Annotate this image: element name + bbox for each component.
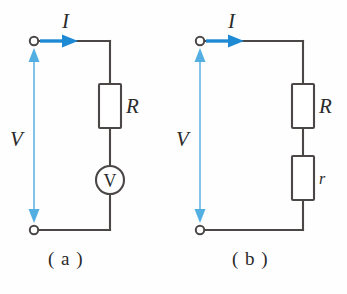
circuit-diagram-b: I V R r [173, 0, 347, 245]
circuit-diagram-a: V I V R [0, 0, 174, 245]
current-label-a: I [61, 9, 70, 33]
resistor-R-b [292, 84, 314, 128]
resistor-label-R-b: R [318, 94, 332, 118]
wires-b [204, 41, 303, 230]
bottom-terminal-b [196, 226, 204, 234]
circuit-figure: V I V R [0, 0, 347, 294]
resistor-label-r-b: r [319, 170, 326, 187]
current-label-b: I [227, 9, 236, 33]
top-terminal-a [30, 37, 38, 45]
caption-a: ( a ) [48, 248, 84, 270]
wires-a [38, 41, 110, 230]
top-terminal-b [196, 37, 204, 45]
resistor-R-a [99, 84, 121, 128]
voltmeter-label-a: V [104, 171, 117, 191]
current-arrow-a [40, 35, 78, 48]
voltage-arrow-b [195, 48, 206, 223]
voltage-label-a: V [10, 127, 25, 151]
resistor-r-b [292, 156, 314, 200]
voltage-arrow-a [29, 48, 40, 223]
voltage-label-b: V [176, 127, 191, 151]
resistor-label-R-a: R [125, 94, 139, 118]
bottom-terminal-a [30, 226, 38, 234]
current-arrow-b [206, 35, 244, 48]
caption-b: ( b ) [232, 248, 269, 270]
